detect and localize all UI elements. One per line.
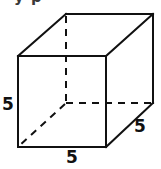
dimension-label-right: 5	[134, 118, 146, 135]
edge-front-top-left-to-back-top-left	[18, 14, 66, 56]
edge-front-top-right-to-back-top-right	[106, 14, 153, 56]
cube-diagram: y p 5 5 5	[0, 0, 161, 169]
front-face-outline	[18, 56, 106, 147]
dimension-label-bottom: 5	[66, 149, 78, 166]
hidden-edge-back-bottom-left-to-front-bottom-left	[19, 104, 65, 146]
cube-hidden-edges	[19, 16, 152, 146]
dimension-label-left: 5	[2, 96, 14, 113]
edge-front-bottom-right-to-back-bottom-right	[106, 103, 153, 147]
cube-solid-edges	[18, 14, 153, 147]
cube-drawing	[0, 0, 161, 169]
